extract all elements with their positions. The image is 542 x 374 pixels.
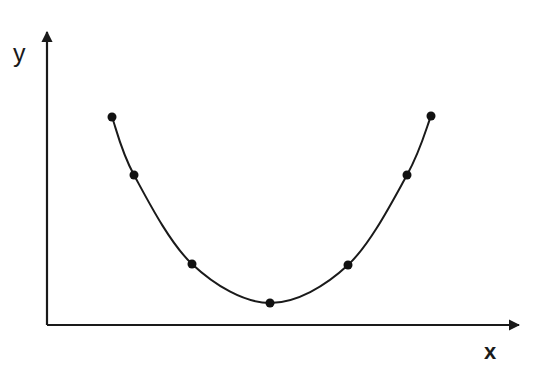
data-point [427,112,436,121]
data-curve [112,116,431,303]
plot-canvas [0,0,542,374]
x-axis-label: x [484,341,496,363]
data-point [266,299,275,308]
data-point [188,260,197,269]
data-point [344,261,353,270]
data-point-markers [108,112,436,308]
figure-container: y x [0,0,542,374]
data-point [403,171,412,180]
data-point [108,113,117,122]
y-axis-label: y [13,41,26,66]
data-point [130,171,139,180]
